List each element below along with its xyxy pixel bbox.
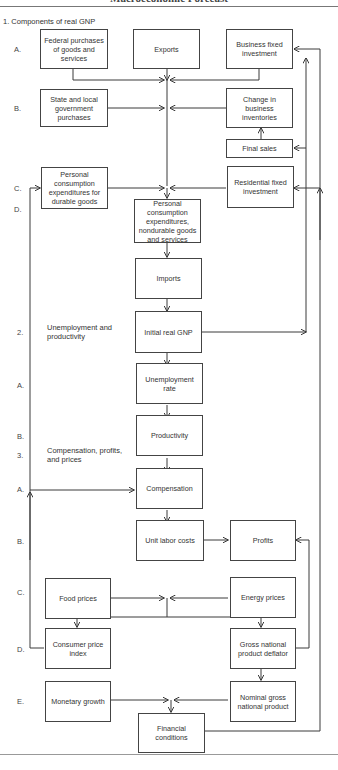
row-label-1d: D.: [14, 205, 22, 214]
box-change-in-inventories: Change in business inventories: [226, 88, 293, 128]
box-residential-fixed-investment: Residential fixed investment: [227, 166, 294, 208]
box-nominal-gnp: Nominal gross national product: [230, 681, 296, 722]
section-title-compensation: Compensation, profits, and prices: [47, 446, 133, 464]
box-profits: Profits: [230, 520, 296, 561]
row-label-2b: B.: [17, 432, 24, 441]
row-label-3a: A.: [17, 485, 24, 494]
row-label-3d: D.: [17, 645, 25, 654]
box-financial-conditions: Financial conditions: [138, 713, 205, 753]
box-productivity: Productivity: [136, 415, 203, 456]
box-monetary-growth: Monetary growth: [45, 681, 111, 722]
row-label-2a: A.: [17, 381, 24, 390]
box-food-prices: Food prices: [45, 578, 111, 619]
box-imports: Imports: [135, 258, 202, 299]
box-compensation: Compensation: [136, 468, 203, 509]
section-number-2: 2.: [17, 328, 23, 337]
box-final-sales: Final sales: [226, 139, 293, 158]
box-state-local-purchases: State and local government purchases: [40, 89, 108, 127]
box-federal-purchases: Federal purchases of goods and services: [40, 29, 108, 69]
bottom-rule: [0, 754, 338, 755]
section-number-3: 3.: [17, 451, 23, 460]
row-label-1a: A.: [14, 45, 21, 54]
row-label-3e: E.: [17, 697, 24, 706]
row-label-1c: C.: [14, 184, 22, 193]
box-durable-goods: Personal consumption expenditures for du…: [41, 167, 108, 209]
box-business-fixed-investment: Business fixed investment: [226, 29, 293, 69]
box-initial-real-gnp: Initial real GNP: [135, 311, 202, 353]
row-label-3c: C.: [17, 588, 25, 597]
box-nondurable-goods-services: Personal consumption expenditures, nondu…: [134, 199, 201, 243]
box-unemployment-rate: Unemployment rate: [136, 363, 203, 404]
box-unit-labor-costs: Unit labor costs: [136, 520, 204, 561]
row-label-1b: B.: [14, 104, 21, 113]
box-energy-prices: Energy prices: [230, 577, 296, 618]
section-title-components: 1. Components of real GNP: [3, 17, 95, 26]
row-label-3b: B.: [17, 537, 24, 546]
box-consumer-price-index: Consumer price index: [45, 628, 111, 669]
box-exports: Exports: [133, 29, 200, 69]
section-title-unemployment: Unemployment and productivity: [47, 323, 123, 341]
box-gnp-deflator: Gross national product deflator: [230, 628, 296, 669]
